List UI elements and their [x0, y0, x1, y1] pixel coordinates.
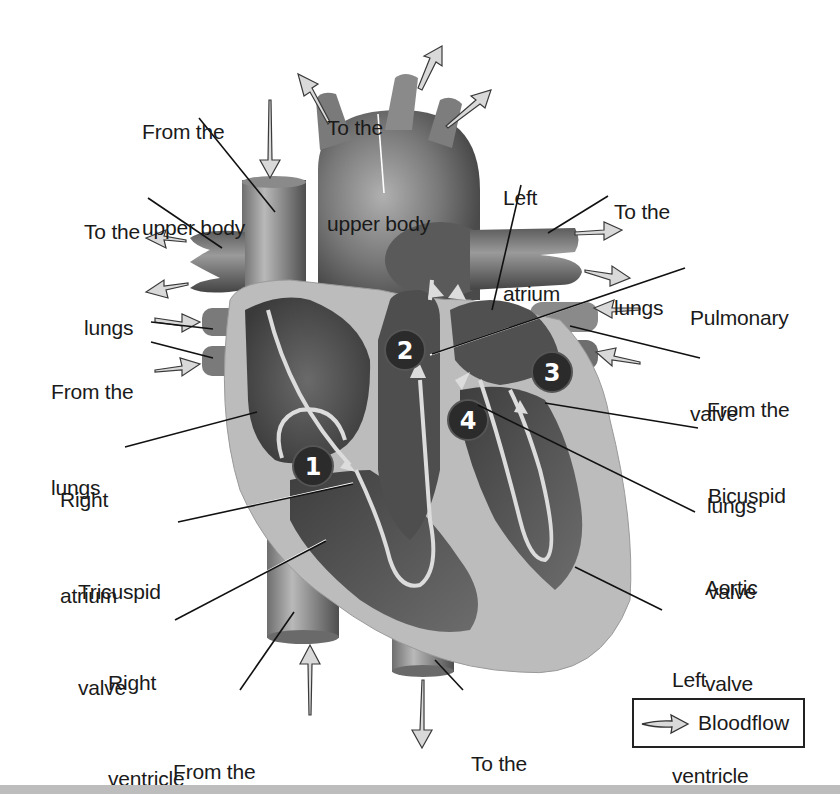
- label-line: To the: [84, 216, 140, 248]
- arrow-from-lower-body-icon: [300, 645, 320, 715]
- label-line: To the: [327, 112, 430, 144]
- step-badge-1-number: 1: [305, 453, 322, 481]
- legend-label: Bloodflow: [698, 709, 789, 737]
- label-line: upper body: [327, 208, 430, 240]
- arrow-to-lower-body-icon: [412, 680, 432, 748]
- legend: Bloodflow: [632, 698, 805, 748]
- label-line: Left: [503, 182, 560, 214]
- step-badge-4-number: 4: [460, 407, 477, 435]
- label-line: From the: [51, 376, 133, 408]
- label-to-lungs-right: To the lungs: [614, 132, 670, 388]
- label-left-atrium: Left atrium: [503, 118, 560, 374]
- step-badge-2-number: 2: [397, 337, 414, 365]
- label-line: To the: [471, 748, 571, 780]
- label-from-upper-body: From the upper body: [142, 52, 245, 308]
- step-badge-1: 1: [293, 446, 333, 486]
- label-line: atrium: [503, 278, 560, 310]
- label-from-lower-body: From the lower body: [173, 692, 273, 794]
- arrow-from-upper-body-icon: [260, 100, 280, 178]
- label-to-lower-body: To the lower body: [471, 684, 571, 794]
- bottom-border: [0, 785, 840, 794]
- step-badge-2: 2: [385, 330, 425, 370]
- label-line: To the: [614, 196, 670, 228]
- label-line: Left: [672, 664, 748, 696]
- label-line: lungs: [614, 292, 670, 324]
- heart-diagram: 1 2 3 4: [0, 0, 840, 794]
- arrow-from-lungs-left-2-icon: [155, 358, 200, 376]
- step-badge-4: 4: [448, 400, 488, 440]
- label-line: upper body: [142, 212, 245, 244]
- label-left-ventricle: Left ventricle: [672, 600, 748, 794]
- label-line: From the: [173, 756, 273, 788]
- bloodflow-arrow-icon: [640, 712, 692, 736]
- label-line: From the: [142, 116, 245, 148]
- label-to-upper-body: To the upper body: [327, 48, 430, 304]
